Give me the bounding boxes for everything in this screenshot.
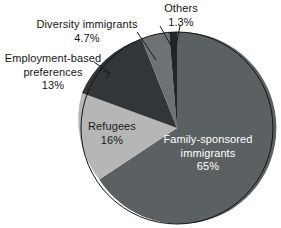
slice-label-refugees: Refugees 16% xyxy=(70,120,154,147)
slice-label-family-name-line2: immigrants xyxy=(150,147,266,161)
pie-chart: Others 1.3% Diversity immigrants 4.7% Em… xyxy=(0,0,281,228)
slice-label-refugees-percent: 16% xyxy=(70,134,154,148)
slice-label-others-name: Others xyxy=(150,2,212,16)
slice-label-diversity-name: Diversity immigrants xyxy=(22,18,152,32)
slice-label-diversity-immigrants: Diversity immigrants 4.7% xyxy=(22,18,152,45)
slice-label-others-percent: 1.3% xyxy=(150,16,212,30)
slice-label-employment-name-line2: preferences xyxy=(0,66,108,80)
slice-label-diversity-percent: 4.7% xyxy=(22,32,152,46)
slice-label-employment-percent: 13% xyxy=(0,79,108,93)
slice-label-family-name-line1: Family-sponsored xyxy=(150,133,266,147)
slice-label-others: Others 1.3% xyxy=(150,2,212,29)
slice-label-family-percent: 65% xyxy=(150,160,266,174)
slice-label-refugees-name: Refugees xyxy=(70,120,154,134)
slice-label-employment-name-line1: Employment-based xyxy=(0,52,108,66)
slice-label-employment-based: Employment-based preferences 13% xyxy=(0,52,108,93)
slice-label-family-sponsored: Family-sponsored immigrants 65% xyxy=(150,133,266,174)
